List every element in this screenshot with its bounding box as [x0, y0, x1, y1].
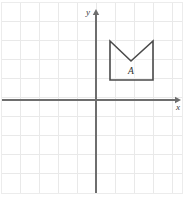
coordinate-plane-figure: x y A	[0, 0, 187, 199]
coordinate-plane-svg: x y A	[0, 0, 187, 199]
y-axis-label: y	[85, 7, 90, 17]
figure-a-label: A	[127, 66, 134, 76]
x-axis-label: x	[175, 102, 180, 112]
